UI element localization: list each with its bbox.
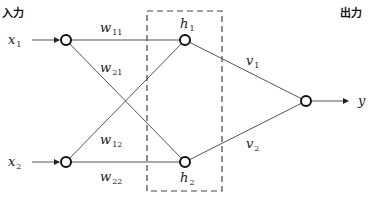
weight-label-w21: w21 [100,60,122,77]
weight-label-w12: w12 [100,132,122,149]
output-label-y: y [357,93,366,108]
neural-network-diagram: 入力 出力 x1 x2 h1 h2 y w11 w21 w12 w22 v1 v… [0,0,375,201]
edge-v2 [185,101,306,162]
hidden-node-1 [180,35,190,45]
input-heading: 入力 [2,6,24,20]
input-label-x1: x1 [8,32,21,49]
weight-label-v2: v2 [246,136,259,153]
weight-label-v1: v1 [246,53,259,70]
edge-v1 [185,40,306,101]
hidden-label-h2: h2 [180,170,194,187]
input-node-2 [61,157,71,167]
hidden-label-h1: h1 [180,16,194,33]
output-heading: 出力 [340,6,362,20]
input-node-1 [61,35,71,45]
hidden-node-2 [180,157,190,167]
weight-label-w11: w11 [100,20,122,37]
weight-label-w22: w22 [100,169,122,186]
input-label-x2: x2 [8,154,21,171]
output-node [301,96,311,106]
